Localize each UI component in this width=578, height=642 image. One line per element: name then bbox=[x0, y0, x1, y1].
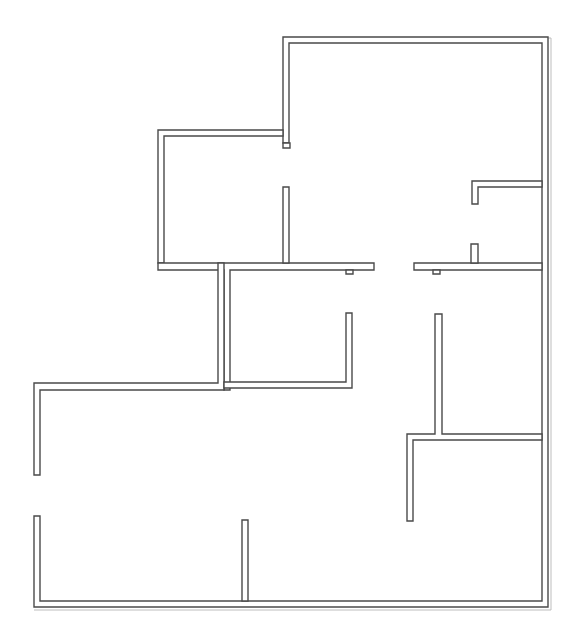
wall-west-room-lower-wall bbox=[158, 263, 374, 390]
wall-north-bump-jamb bbox=[283, 143, 290, 148]
wall-east-closet-wall bbox=[472, 181, 542, 204]
wall-central-room-bottom bbox=[224, 313, 352, 388]
wall-north-wall-upper bbox=[34, 37, 548, 607]
wall-east-corridor-wall bbox=[414, 263, 542, 270]
wall-west-room-upper-wall bbox=[158, 130, 283, 263]
wall-east-corridor-jamb bbox=[433, 270, 440, 274]
wall-jamb-under-center bbox=[346, 270, 353, 274]
wall-south-stub bbox=[242, 520, 248, 601]
wall-east-stub-vertical bbox=[471, 244, 478, 263]
walls-group bbox=[34, 37, 548, 607]
wall-west-wing-wall bbox=[34, 263, 224, 475]
floor-plan-diagram bbox=[0, 0, 578, 642]
wall-stub-partition-upper-middle bbox=[283, 187, 289, 263]
outer-wall-shadow bbox=[34, 38, 551, 610]
wall-east-room-partition bbox=[407, 314, 542, 521]
